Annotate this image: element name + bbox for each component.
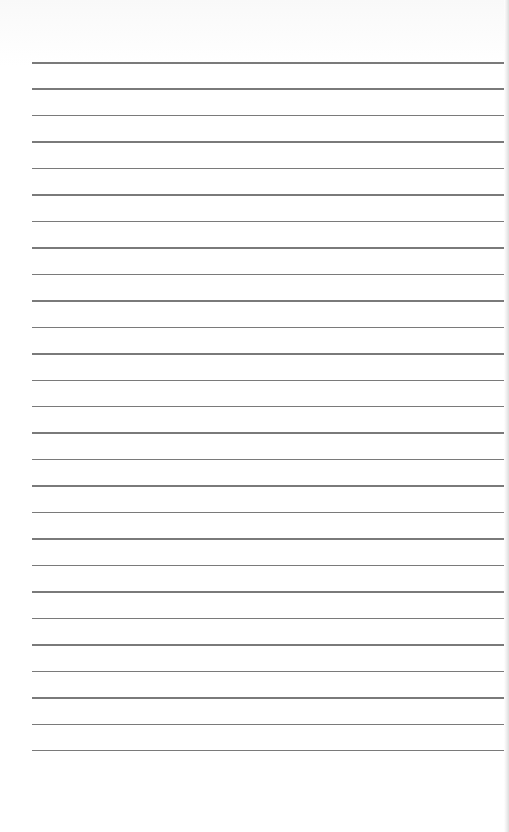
ruled-line xyxy=(32,538,509,540)
ruled-line xyxy=(32,459,509,461)
ruled-line xyxy=(32,406,509,408)
ruled-line xyxy=(32,380,509,382)
ruled-line xyxy=(32,194,509,196)
page-edge-shadow xyxy=(504,0,509,832)
ruled-line xyxy=(32,247,509,249)
ruled-line xyxy=(32,644,509,646)
ruled-line xyxy=(32,512,509,514)
ruled-line xyxy=(32,697,509,699)
ruled-line xyxy=(32,115,509,117)
ruled-line xyxy=(32,671,509,673)
ruled-line xyxy=(32,724,509,726)
ruled-line xyxy=(32,432,509,434)
ruled-line xyxy=(32,141,509,143)
ruled-line xyxy=(32,62,509,64)
ruled-line xyxy=(32,168,509,170)
ruled-line xyxy=(32,274,509,276)
ruled-line xyxy=(32,88,509,90)
ruled-line xyxy=(32,353,509,355)
lined-paper-page xyxy=(0,0,509,832)
ruled-line xyxy=(32,485,509,487)
ruled-line xyxy=(32,565,509,567)
ruled-line xyxy=(32,327,509,329)
ruled-line xyxy=(32,221,509,223)
ruled-line xyxy=(32,591,509,593)
ruled-line xyxy=(32,300,509,302)
ruled-line xyxy=(32,750,509,752)
ruled-line xyxy=(32,618,509,620)
